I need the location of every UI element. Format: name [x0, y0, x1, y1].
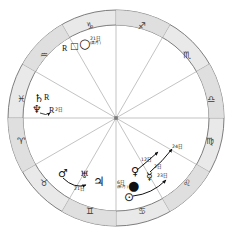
planet-pluto-box: □: [70, 42, 79, 51]
planet-neptune: ♆: [32, 104, 42, 115]
sign-glyph-libra: ♎: [207, 94, 215, 104]
moon-full-note-text: (満月): [90, 42, 101, 46]
moon-new-note-text: (新月): [117, 186, 128, 190]
sign-glyph-aquarius: ♒: [40, 50, 48, 60]
label-mercury-date: 2日: [154, 165, 162, 170]
planet-moon-full: ○: [79, 37, 90, 50]
sign-glyph-virgo: ♍: [206, 136, 214, 146]
label-jupiter-date: 21日: [74, 187, 85, 192]
sign-glyph-leo: ♌: [183, 178, 191, 188]
planet-venus: ♀: [131, 166, 139, 177]
sign-glyph-gemini: ♊: [86, 206, 94, 216]
planet-uranus: ♅: [80, 170, 89, 180]
label-moon-new-date: 6日 (新月): [117, 181, 128, 189]
center-marker: [114, 116, 118, 120]
sign-glyph-cancer: ♋: [138, 206, 146, 216]
label-moon-full-date: 21日 (満月): [90, 37, 101, 45]
label-outer-date: 24日: [172, 145, 183, 150]
retrograde-mark-neptune: R: [49, 107, 54, 115]
sign-glyph-sagittarius: ♐: [138, 21, 146, 31]
planet-jupiter: ♃: [93, 175, 105, 188]
label-sun-date: 23日: [157, 174, 168, 179]
label-venus-date: 12日: [141, 158, 152, 163]
sign-glyph-aries: ♈: [17, 136, 26, 146]
sign-glyph-capricorn: ♑: [86, 21, 94, 31]
wheel-graphic: ♑ ♐ ♏ ♎ ♍ ♌ ♋ ♊ ♉ ♈ ♓ ♒: [0, 0, 232, 236]
label-neptune-date: 2日: [55, 108, 63, 113]
sign-glyph-pisces: ♓: [17, 94, 25, 104]
planet-mars: ♂: [58, 168, 68, 179]
planet-sun: ⊙: [124, 191, 134, 203]
sign-glyph-taurus: ♉: [40, 178, 48, 188]
retrograde-mark-saturn: R: [44, 94, 49, 102]
astrology-chart-wheel: ♑ ♐ ♏ ♎ ♍ ♌ ♋ ♊ ♉ ♈ ♓ ♒ ○ □ R 21日 (満月) ♄…: [0, 0, 232, 236]
retrograde-mark-pluto: R: [62, 45, 67, 53]
planet-mercury: ☿: [146, 171, 153, 182]
sign-glyph-scorpio: ♏: [183, 50, 191, 60]
